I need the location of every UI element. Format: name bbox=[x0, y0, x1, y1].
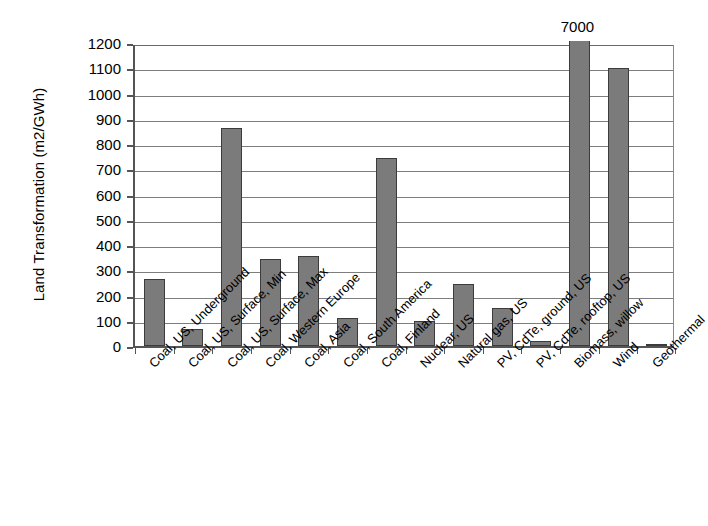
bar-value-label: 7000 bbox=[537, 18, 617, 35]
x-axis-tickmark bbox=[444, 348, 445, 354]
x-axis-tickmark bbox=[251, 348, 252, 354]
x-axis-tickmark bbox=[637, 348, 638, 354]
plot-area bbox=[133, 45, 674, 348]
bar bbox=[453, 284, 474, 346]
chart-figure: Land Transformation (m2/GWh) 12001100100… bbox=[0, 0, 708, 526]
x-axis-tickmark bbox=[135, 348, 136, 354]
gridline bbox=[135, 121, 673, 122]
gridline bbox=[135, 171, 673, 172]
x-axis-tickmark bbox=[174, 348, 175, 354]
bar bbox=[492, 308, 513, 346]
y-axis-tick-label: 400 bbox=[0, 237, 121, 254]
bar bbox=[182, 329, 203, 346]
x-axis-tickmark bbox=[406, 348, 407, 354]
gridline bbox=[135, 323, 673, 324]
bar bbox=[530, 341, 551, 346]
x-axis-tickmark bbox=[212, 348, 213, 354]
y-axis-tick-label: 800 bbox=[0, 136, 121, 153]
bar bbox=[337, 318, 358, 346]
scan-artifact bbox=[186, 0, 191, 16]
y-axis-tick-label: 700 bbox=[0, 161, 121, 178]
x-axis-tickmark bbox=[290, 348, 291, 354]
y-axis-tick-label: 500 bbox=[0, 212, 121, 229]
gridline bbox=[135, 197, 673, 198]
x-axis-tickmark bbox=[675, 348, 676, 354]
bar bbox=[608, 68, 629, 346]
y-axis-tick-label: 0 bbox=[0, 338, 121, 355]
y-axis-tick-label: 900 bbox=[0, 111, 121, 128]
bar bbox=[569, 41, 590, 346]
y-axis-tick-label: 200 bbox=[0, 288, 121, 305]
gridline bbox=[135, 146, 673, 147]
x-axis-tickmark bbox=[328, 348, 329, 354]
y-axis-tick-label: 1200 bbox=[0, 35, 121, 52]
x-axis-tickmark bbox=[367, 348, 368, 354]
bar bbox=[144, 279, 165, 346]
bar bbox=[376, 158, 397, 346]
y-axis-tick-label: 100 bbox=[0, 313, 121, 330]
bar bbox=[414, 321, 435, 346]
x-axis-tickmark bbox=[483, 348, 484, 354]
gridline bbox=[135, 96, 673, 97]
bar bbox=[298, 256, 319, 346]
gridline bbox=[135, 70, 673, 71]
gridline bbox=[135, 298, 673, 299]
y-axis-tick-label: 1100 bbox=[0, 60, 121, 77]
y-axis-tick-label: 300 bbox=[0, 262, 121, 279]
gridline bbox=[135, 222, 673, 223]
gridline bbox=[135, 45, 673, 46]
bar bbox=[646, 344, 667, 346]
bar bbox=[260, 259, 281, 346]
x-axis-tickmark bbox=[560, 348, 561, 354]
gridline bbox=[135, 247, 673, 248]
y-axis-tick-label: 600 bbox=[0, 187, 121, 204]
y-axis-tick-label: 1000 bbox=[0, 86, 121, 103]
x-axis-tickmark bbox=[599, 348, 600, 354]
x-axis-tickmark bbox=[521, 348, 522, 354]
gridline bbox=[135, 272, 673, 273]
bar bbox=[221, 128, 242, 346]
